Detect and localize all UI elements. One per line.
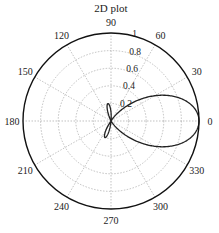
angle-tick-label: 240 — [54, 201, 69, 212]
polar-chart: 2D plot 0.20.40.60.81 030609012015018021… — [0, 0, 219, 233]
radial-tick-labels: 0.20.40.60.81 — [120, 29, 141, 108]
angle-grid-line — [35, 121, 111, 165]
angle-tick-label: 300 — [153, 201, 168, 212]
angle-grid-line — [111, 121, 155, 197]
radial-tick-label: 0.4 — [123, 81, 135, 91]
angle-grid-line — [67, 121, 111, 197]
angle-tick-label: 120 — [54, 30, 69, 41]
angle-grid-line — [35, 77, 111, 121]
data-curve — [104, 95, 199, 147]
angle-tick-label: 90 — [106, 17, 116, 28]
radial-tick-label: 0.8 — [129, 47, 141, 57]
angle-tick-label: 330 — [189, 165, 204, 176]
radial-tick-label: 1 — [132, 29, 137, 39]
angle-tick-label: 180 — [5, 116, 20, 127]
radial-tick-label: 0.6 — [126, 64, 138, 74]
angle-tick-label: 60 — [156, 30, 166, 41]
angle-tick-label: 270 — [104, 215, 119, 226]
angle-grid-line — [67, 45, 111, 121]
chart-title: 2D plot — [94, 2, 127, 14]
angle-grid-line — [111, 121, 187, 165]
angle-tick-label: 150 — [18, 66, 33, 77]
angle-tick-label: 210 — [18, 165, 33, 176]
angle-tick-label: 30 — [192, 66, 202, 77]
angle-tick-label: 0 — [208, 116, 213, 127]
